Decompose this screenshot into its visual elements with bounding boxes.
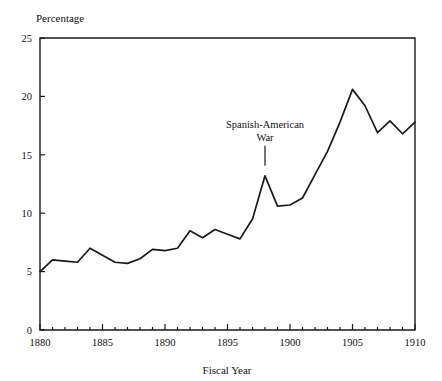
x-tick-label: 1905 [342,337,363,348]
y-tick-label: 20 [22,91,33,102]
y-tick-label: 25 [22,33,33,44]
x-tick-label: 1880 [30,337,51,348]
annotation-label-line1: Spanish-American [226,119,305,130]
x-tick-label: 1890 [155,337,176,348]
x-tick-label: 1900 [280,337,301,348]
line-chart: Percentage 0510152025 188018851890189519… [0,0,442,381]
y-tick-label: 5 [27,266,32,277]
y-axis-title: Percentage [36,12,84,24]
chart-figure: Percentage 0510152025 188018851890189519… [0,0,442,381]
x-tick-label: 1910 [405,337,426,348]
x-axis-title: Fiscal Year [203,364,252,376]
y-tick-label: 10 [22,208,33,219]
chart-background [0,0,442,381]
annotation-label-line2: War [256,132,274,143]
y-tick-label: 0 [27,325,32,336]
x-tick-label: 1885 [92,337,113,348]
x-tick-label: 1895 [217,337,238,348]
y-tick-label: 15 [22,150,33,161]
